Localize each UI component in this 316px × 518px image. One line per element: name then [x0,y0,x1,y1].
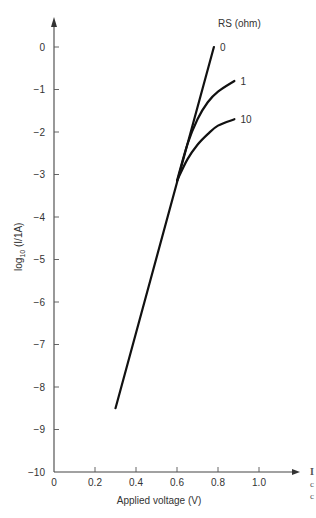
series-line-rs-1 [177,81,234,181]
series-label-rs-10: 10 [240,114,252,125]
y-axis-label: log10 (I/1A) [13,223,26,271]
cropped-caption-fragment: c [310,490,314,502]
series-line-rs-0 [116,47,214,408]
x-ticks: 00.20.40.60.81.0 [51,467,266,488]
axes [51,17,300,475]
y-tick-label: −8 [34,382,46,393]
x-tick-label: 1.0 [252,477,266,488]
x-axis-label: Applied voltage (V) [117,495,202,506]
y-tick-label: −7 [34,339,46,350]
series-group: 0110 [116,42,252,408]
y-tick-label: −4 [34,212,46,223]
y-tick-label: −2 [34,127,46,138]
y-tick-label: −3 [34,169,46,180]
y-tick-label: −1 [34,84,46,95]
y-tick-label: −6 [34,297,46,308]
y-axis-label-main: log [13,258,24,271]
y-tick-label: −10 [28,467,45,478]
y-tick-label: −5 [34,254,46,265]
x-tick-label: 0.8 [211,477,225,488]
y-axis-arrow-icon [51,17,57,27]
x-tick-label: 0.4 [129,477,143,488]
x-tick-label: 0 [51,477,57,488]
y-axis-label-rest: (I/1A) [13,223,24,250]
y-tick-label: 0 [39,42,45,53]
series-label-rs-1: 1 [240,76,246,87]
legend-title: RS (ohm) [218,18,261,29]
x-tick-label: 0.6 [170,477,184,488]
x-tick-label: 0.2 [88,477,102,488]
y-axis-label-subscript: 10 [19,250,26,258]
cropped-caption-fragment: c [310,478,314,490]
series-label-rs-0: 0 [220,42,226,53]
y-tick-label: −9 [34,424,46,435]
chart: 0−1−2−3−4−5−6−7−8−9−10 00.20.40.60.81.0 … [0,0,316,518]
x-axis-arrow-icon [292,469,300,475]
cropped-caption-fragment: I [310,466,314,478]
